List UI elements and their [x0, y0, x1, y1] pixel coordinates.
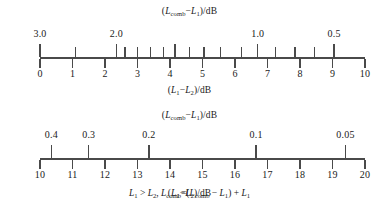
tick-label-difference: 16: [230, 169, 240, 180]
tick-label-difference: 11: [67, 169, 77, 180]
nomogram-figure: (Lcomb−L1)/dB 3.02.01.00.5 012345678910 …: [0, 0, 379, 213]
tick-mark-lower: [267, 59, 268, 68]
tick-mark-upper: [294, 47, 295, 57]
tick-mark-lower: [104, 160, 105, 169]
formula-l1-sub: 1: [134, 192, 137, 199]
formula-lcomb-sub: comb: [166, 192, 181, 199]
tick-label-difference: 3: [135, 68, 140, 79]
tick-mark-lower: [137, 59, 138, 68]
tick-mark-lower: [72, 160, 73, 169]
tick-label-difference: 7: [265, 68, 270, 79]
tick-label-increment: 1.0: [251, 28, 264, 39]
formula-close-plus: ) +: [228, 188, 241, 198]
tick-label-difference: 12: [100, 169, 110, 180]
tick-mark-lower: [299, 59, 300, 68]
tick-label-difference: 19: [327, 169, 337, 180]
formula-gt: >: [138, 188, 148, 198]
tick-mark-upper: [39, 44, 40, 57]
tick-mark-upper: [189, 47, 190, 57]
tick-mark-upper: [124, 47, 125, 57]
tick-mark-lower: [234, 160, 235, 169]
tick-label-difference: 4: [167, 68, 172, 79]
tick-mark-upper: [163, 47, 164, 57]
formula-l1-c: L: [241, 188, 246, 198]
tick-mark-lower: [332, 160, 333, 169]
tick-label-increment: 0.1: [250, 129, 263, 140]
tick-label-difference: 0: [37, 68, 42, 79]
tick-mark-upper: [88, 145, 89, 158]
tick-label-difference: 14: [165, 169, 175, 180]
formula-equals-paren: =(: [181, 188, 190, 198]
tick-mark-lower: [72, 59, 73, 68]
tick-mark-upper: [314, 47, 315, 57]
tick-mark-upper: [275, 47, 276, 57]
formula-lcomb-2: L: [190, 188, 195, 198]
tick-label-increment: 0.3: [82, 129, 95, 140]
symbol-l1-subscript: 1: [176, 89, 179, 96]
tick-label-increment: 0.5: [328, 28, 341, 39]
tick-mark-upper: [203, 47, 204, 57]
tick-mark-lower: [202, 59, 203, 68]
tick-mark-lower: [332, 59, 333, 68]
symbol-l2: L: [185, 85, 190, 95]
symbol-l2-subscript: 2: [191, 89, 194, 96]
tick-mark-lower: [364, 160, 365, 169]
tick-label-increment: 0.05: [336, 129, 354, 140]
tick-mark-lower: [137, 160, 138, 169]
upper-scale-bottom-caption: (L1−L2)/dB: [0, 85, 379, 95]
tick-label-increment: 0.4: [45, 129, 58, 140]
tick-mark-upper: [255, 145, 256, 158]
formula-l1-b-sub: 1: [225, 192, 228, 199]
formula-minus: −: [209, 188, 219, 198]
tick-mark-lower: [267, 160, 268, 169]
tick-mark-lower: [364, 59, 365, 68]
tick-label-difference: 20: [360, 169, 370, 180]
tick-label-difference: 10: [360, 68, 370, 79]
tick-mark-upper: [148, 145, 149, 158]
tick-mark-lower: [169, 160, 170, 169]
tick-mark-lower: [299, 160, 300, 169]
tick-label-increment: 2.0: [110, 28, 123, 39]
unit-db: )/dB: [194, 85, 211, 95]
tick-mark-upper: [333, 44, 334, 57]
formula-lcomb-2-sub: comb: [195, 192, 210, 199]
tick-label-difference: 6: [232, 68, 237, 79]
tick-mark-upper: [150, 47, 151, 57]
tick-mark-upper: [241, 47, 242, 57]
tick-mark-upper: [345, 145, 346, 158]
tick-mark-upper: [257, 44, 258, 57]
formula-line: L1 > L2, Lcomb=(Lcomb − L1) + L1: [0, 188, 379, 198]
formula-l1-c-sub: 1: [247, 192, 250, 199]
tick-label-difference: 5: [200, 68, 205, 79]
tick-mark-upper: [220, 47, 221, 57]
tick-label-difference: 2: [102, 68, 107, 79]
tick-label-difference: 9: [330, 68, 335, 79]
formula-l2-sub: 2: [153, 192, 156, 199]
tick-label-difference: 13: [132, 169, 142, 180]
tick-mark-lower: [39, 59, 40, 68]
tick-label-difference: 10: [35, 169, 45, 180]
tick-label-difference: 18: [295, 169, 305, 180]
tick-mark-lower: [234, 59, 235, 68]
tick-mark-lower: [169, 59, 170, 68]
tick-mark-upper: [116, 44, 117, 57]
scale-upper: (Lcomb−L1)/dB 3.02.01.00.5 012345678910 …: [0, 0, 379, 104]
tick-label-increment: 3.0: [33, 28, 46, 39]
tick-label-difference: 17: [262, 169, 272, 180]
tick-mark-lower: [202, 160, 203, 169]
tick-label-difference: 1: [70, 68, 75, 79]
tick-label-difference: 8: [297, 68, 302, 79]
tick-mark-lower: [104, 59, 105, 68]
tick-mark-upper: [51, 145, 52, 158]
tick-label-difference: 15: [197, 169, 207, 180]
tick-mark-upper: [137, 47, 138, 57]
tick-label-increment: 0.2: [142, 129, 155, 140]
tick-mark-upper: [174, 44, 175, 57]
tick-mark-lower: [39, 160, 40, 169]
tick-mark-upper: [75, 47, 76, 57]
